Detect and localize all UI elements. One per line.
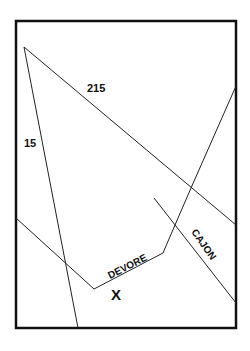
label-i15: 15 xyxy=(24,137,36,149)
location-marker-x: X xyxy=(111,286,121,303)
label-i215: 215 xyxy=(87,82,105,94)
map-background xyxy=(0,0,250,351)
map: 15 215 DEVORE CAJON X xyxy=(0,0,250,351)
map-canvas: 15 215 DEVORE CAJON X xyxy=(0,0,250,351)
